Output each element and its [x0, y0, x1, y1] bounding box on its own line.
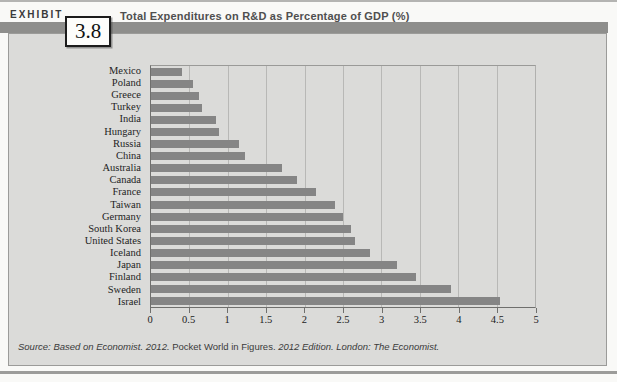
source-segment-italic-2: 2012 Edition. London: The Economist. — [278, 341, 439, 352]
bar — [151, 249, 370, 257]
category-labels: MexicoPolandGreeceTurkeyIndiaHungaryRuss… — [28, 65, 146, 308]
bar — [151, 92, 199, 100]
category-label: Sweden — [28, 284, 141, 296]
category-label: Iceland — [28, 247, 141, 259]
x-tick-label: 3.5 — [414, 314, 427, 325]
bar-row — [151, 126, 535, 138]
source-note: Source: Based on Economist. 2012. Pocket… — [18, 341, 439, 352]
bar — [151, 128, 219, 136]
bar-row — [151, 223, 535, 235]
x-tick-label: 0 — [147, 314, 152, 325]
x-tickmark — [420, 308, 421, 313]
category-label: Turkey — [28, 101, 141, 113]
bar-row — [151, 235, 535, 247]
plot-area — [150, 65, 536, 308]
bar — [151, 297, 500, 305]
x-tickmark — [304, 308, 305, 313]
bar — [151, 164, 282, 172]
x-tick-label: 4.5 — [491, 314, 504, 325]
x-tickmark — [150, 308, 151, 313]
bottom-rule — [0, 371, 617, 374]
exhibit-number-box: 3.8 — [65, 16, 111, 47]
bar-row — [151, 114, 535, 126]
x-tick-label: 5 — [533, 314, 538, 325]
x-tick-label: 1.5 — [259, 314, 272, 325]
chart-title: Total Expenditures on R&D as Percentage … — [120, 10, 590, 22]
category-label: Canada — [28, 174, 141, 186]
x-tickmark — [382, 308, 383, 313]
x-tick-label: 0.5 — [182, 314, 195, 325]
bar-row — [151, 186, 535, 198]
bar-row — [151, 66, 535, 78]
category-label: Germany — [28, 211, 141, 223]
bar-row — [151, 138, 535, 150]
category-label: Greece — [28, 89, 141, 101]
top-rule — [0, 0, 617, 2]
x-tick-label: 2.5 — [336, 314, 349, 325]
exhibit-label: EXHIBIT — [10, 9, 63, 20]
bar — [151, 140, 239, 148]
bar-row — [151, 283, 535, 295]
category-label: Russia — [28, 138, 141, 150]
bar-row — [151, 102, 535, 114]
bar-row — [151, 78, 535, 90]
bar — [151, 285, 451, 293]
x-tickmark — [266, 308, 267, 313]
x-tick-label: 3 — [379, 314, 384, 325]
bar — [151, 261, 397, 269]
bar — [151, 273, 416, 281]
category-label: South Korea — [28, 223, 141, 235]
bar — [151, 104, 202, 112]
x-tick-label: 4 — [456, 314, 461, 325]
x-tickmark — [343, 308, 344, 313]
category-label: United States — [28, 235, 141, 247]
category-label: Taiwan — [28, 199, 141, 211]
category-label: Japan — [28, 260, 141, 272]
exhibit-figure: EXHIBIT 3.8 Total Expenditures on R&D as… — [0, 0, 617, 382]
category-label: India — [28, 114, 141, 126]
bar — [151, 152, 245, 160]
bar-row — [151, 259, 535, 271]
bar — [151, 116, 216, 124]
bar-row — [151, 247, 535, 259]
x-tickmark — [536, 308, 537, 313]
x-tickmark — [227, 308, 228, 313]
exhibit-number: 3.8 — [75, 19, 101, 44]
category-label: France — [28, 187, 141, 199]
category-label: Hungary — [28, 126, 141, 138]
category-label: Israel — [28, 296, 141, 308]
x-tick-label: 1 — [225, 314, 230, 325]
bars-area — [151, 66, 535, 307]
bar-row — [151, 199, 535, 211]
bar — [151, 213, 343, 221]
bar-row — [151, 90, 535, 102]
bar-row — [151, 211, 535, 223]
category-label: Australia — [28, 162, 141, 174]
x-tickmark — [459, 308, 460, 313]
bar-row — [151, 271, 535, 283]
category-label: Mexico — [28, 65, 141, 77]
category-label: China — [28, 150, 141, 162]
category-label: Poland — [28, 77, 141, 89]
x-tickmark — [189, 308, 190, 313]
bar — [151, 225, 351, 233]
bar — [151, 68, 182, 76]
x-tick-label: 2 — [302, 314, 307, 325]
bar-row — [151, 174, 535, 186]
bar-row — [151, 295, 535, 307]
bar — [151, 188, 316, 196]
category-label: Finland — [28, 272, 141, 284]
source-segment-regular: Pocket World in Figures. — [172, 341, 278, 352]
bar — [151, 237, 355, 245]
bar — [151, 176, 297, 184]
bar — [151, 201, 335, 209]
x-tickmarks — [150, 308, 536, 313]
source-segment-italic-1: Source: Based on Economist. 2012. — [18, 341, 172, 352]
bar-row — [151, 150, 535, 162]
x-tickmark — [497, 308, 498, 313]
bar-row — [151, 162, 535, 174]
x-tick-labels: 00.511.522.533.544.55 — [150, 314, 536, 328]
bar — [151, 80, 193, 88]
